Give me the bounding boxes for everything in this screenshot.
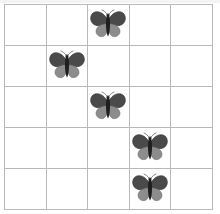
grid-cell-r5-c2[interactable] bbox=[47, 169, 89, 210]
grid-cell-r3-c2[interactable] bbox=[47, 87, 89, 128]
grid-cell-r1-c5[interactable] bbox=[171, 5, 213, 46]
grid-cell-r1-c2[interactable] bbox=[47, 5, 89, 46]
grid-cell-r4-c2[interactable] bbox=[47, 128, 89, 169]
grid-cell-r3-c1[interactable] bbox=[5, 87, 47, 128]
grid-cell-r2-c3[interactable] bbox=[88, 46, 130, 87]
grid-cell-r2-c5[interactable] bbox=[171, 46, 213, 87]
grid-cell-r1-c4[interactable] bbox=[130, 5, 172, 46]
grid-cell-r3-c3[interactable] bbox=[88, 87, 130, 128]
grid bbox=[4, 4, 213, 210]
grid-cell-r4-c1[interactable] bbox=[5, 128, 47, 169]
grid-cell-r2-c1[interactable] bbox=[5, 46, 47, 87]
grid-cell-r1-c1[interactable] bbox=[5, 5, 47, 46]
butterfly-icon bbox=[131, 132, 169, 164]
grid-cell-r4-c4[interactable] bbox=[130, 128, 172, 169]
grid-cell-r4-c5[interactable] bbox=[171, 128, 213, 169]
butterfly-icon bbox=[89, 9, 127, 41]
grid-cell-r2-c2[interactable] bbox=[47, 46, 89, 87]
butterfly-icon bbox=[131, 173, 169, 205]
grid-cell-r5-c4[interactable] bbox=[130, 169, 172, 210]
grid-cell-r5-c3[interactable] bbox=[88, 169, 130, 210]
top-edge-band bbox=[0, 0, 220, 3]
grid-cell-r2-c4[interactable] bbox=[130, 46, 172, 87]
butterfly-grid-scene bbox=[0, 0, 220, 214]
grid-cell-r3-c4[interactable] bbox=[130, 87, 172, 128]
grid-cell-r5-c1[interactable] bbox=[5, 169, 47, 210]
butterfly-icon bbox=[89, 91, 127, 123]
grid-cell-r5-c5[interactable] bbox=[171, 169, 213, 210]
butterfly-icon bbox=[48, 50, 86, 82]
grid-cell-r4-c3[interactable] bbox=[88, 128, 130, 169]
grid-cell-r3-c5[interactable] bbox=[171, 87, 213, 128]
grid-cell-r1-c3[interactable] bbox=[88, 5, 130, 46]
